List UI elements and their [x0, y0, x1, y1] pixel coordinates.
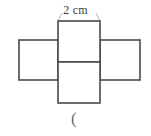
net-face-right — [100, 40, 140, 80]
net-face-center-bottom — [58, 62, 100, 103]
dimension-label-2cm: 2 cm — [0, 3, 151, 17]
net-face-left — [19, 40, 58, 80]
net-face-center-top — [58, 21, 100, 62]
bottom-paren-marker: ( — [71, 110, 77, 127]
figure-canvas: 2 cm ( — [0, 0, 151, 136]
